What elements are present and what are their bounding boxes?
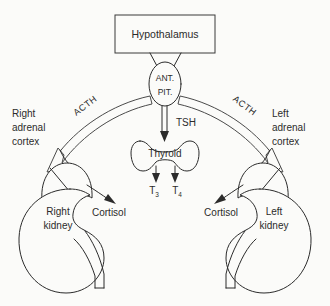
acth-label-right: ACTH (231, 94, 259, 118)
right-adrenal-cortex-label-line1: Right (12, 108, 36, 119)
left-adrenal-cortex-label-line2: adrenal (272, 122, 305, 133)
thyroid-label: Thyroid (148, 148, 181, 159)
cortisol-label-left: Cortisol (92, 207, 126, 218)
hypothalamus-label: Hypothalamus (131, 28, 198, 40)
acth-label-left: ACTH (71, 94, 99, 118)
right-kidney-label-line2: kidney (44, 220, 73, 231)
anterior-pituitary-shape (149, 62, 181, 106)
t3-arrow (152, 166, 160, 183)
pituitary-stalk-right (174, 53, 181, 66)
tsh-arrow (160, 106, 169, 142)
right-adrenal-cortex-label-line2: adrenal (12, 122, 45, 133)
anterior-pituitary-label-line1: ANT. (156, 73, 174, 83)
tsh-label: TSH (176, 117, 196, 128)
left-kidney-label-line2: kidney (260, 220, 289, 231)
left-adrenal-cortex-label-line1: Left (272, 108, 289, 119)
anterior-pituitary-label-line2: PIT. (158, 87, 173, 97)
cortisol-label-right: Cortisol (204, 207, 238, 218)
pituitary-stalk-left (150, 53, 157, 66)
left-kidney-label-line1: Left (266, 206, 283, 217)
left-adrenal-cortex-label-line3: cortex (272, 136, 299, 147)
t3-label: T3 (149, 185, 159, 198)
right-kidney-label-line1: Right (46, 206, 70, 217)
t4-arrow (171, 166, 179, 183)
endocrine-axis-diagram: Hypothalamus ANT. PIT. ACTH ACTH TSH (0, 0, 330, 306)
t4-label: T4 (172, 185, 182, 198)
right-adrenal-cortex-label-line3: cortex (12, 136, 39, 147)
diagram-canvas: Hypothalamus ANT. PIT. ACTH ACTH TSH (0, 0, 330, 306)
